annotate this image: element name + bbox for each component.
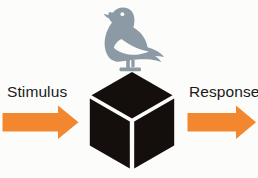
arrow-right-icon — [188, 106, 257, 140]
stimulus-response-diagram: Stimulus Response — [0, 0, 258, 178]
response-label: Response — [189, 84, 258, 100]
arrow-right-icon — [3, 106, 79, 140]
stimulus-label: Stimulus — [7, 84, 67, 100]
